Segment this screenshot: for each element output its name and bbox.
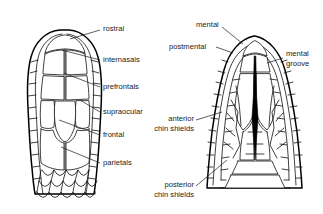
label-posterior-chin-shields-line2: chin shields [154,190,194,199]
label-mental-groove-line1: mental [286,49,309,58]
prefrontal-scale-right [66,76,89,100]
supraocular-scale-right [75,101,90,129]
prefrontal-scale-left [41,76,64,100]
label-mental: mental [196,20,219,29]
scalation-diagram: rostral internasals prefrontals supraocu… [0,0,323,214]
label-mental-groove-line2: groove [286,59,309,68]
label-internasals: internasals [103,55,140,64]
label-frontal: frontal [103,130,124,139]
label-anterior-chin-shields-line2: chin shields [154,124,194,133]
internasal-scale-left [43,50,64,75]
label-parietals: parietals [103,158,132,167]
figure-root: rostral internasals prefrontals supraocu… [0,0,323,214]
label-supraocular: supraocular [103,107,143,116]
label-postmental: postmental [169,42,206,51]
label-posterior-chin-shields-line1: posterior [164,180,194,189]
dorsal-view-drawing [27,30,101,198]
label-anterior-chin-shields-line1: anterior [168,114,194,123]
supraocular-scale-left [40,101,55,129]
label-prefrontals: prefrontals [103,82,139,91]
label-rostral: rostral [103,24,124,33]
